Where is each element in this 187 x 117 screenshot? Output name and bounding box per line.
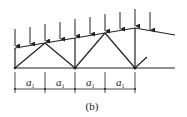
dimension-label: a1 bbox=[116, 76, 125, 89]
truss-diagram: a1 a1 a1 a1 (b) bbox=[0, 0, 187, 117]
diagonal-member bbox=[45, 43, 75, 68]
diagonal-member bbox=[75, 33, 105, 68]
dimension-label: a1 bbox=[86, 76, 95, 89]
dimension-label: a1 bbox=[56, 76, 65, 89]
dimension-label: a1 bbox=[26, 76, 35, 89]
diagonal-member bbox=[105, 33, 135, 68]
node bbox=[14, 67, 17, 70]
load-arrows bbox=[15, 9, 150, 46]
node bbox=[73, 66, 76, 69]
diagonal-member-stub bbox=[135, 57, 147, 68]
figure-caption: (b) bbox=[86, 100, 99, 113]
node bbox=[133, 66, 136, 69]
